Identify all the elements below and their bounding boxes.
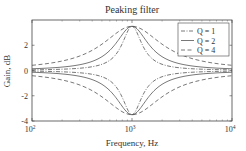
- x-tick-label: 103: [125, 124, 136, 134]
- y-tick-label: 2: [24, 41, 28, 50]
- legend-label: Q = 2: [197, 37, 215, 46]
- y-axis-label: Gain, dB: [2, 55, 12, 88]
- x-tick-label: 104: [225, 124, 236, 134]
- curve-dashdot: [32, 71, 232, 115]
- curve-dashed: [32, 76, 232, 115]
- curve-solid: [32, 72, 232, 114]
- legend-label: Q = 4: [197, 46, 215, 55]
- y-tick-label: -2: [21, 92, 28, 101]
- peaking-filter-chart: Peaking filter -4-202 102103104 Gain, dB…: [0, 0, 246, 151]
- legend: Q = 1Q = 2Q = 4: [178, 23, 229, 56]
- chart-title: Peaking filter: [105, 4, 160, 15]
- x-tick-label: 102: [25, 124, 36, 134]
- legend-label: Q = 1: [197, 27, 215, 36]
- x-axis-label: Frequency, Hz: [106, 138, 158, 148]
- y-tick-label: 0: [24, 67, 28, 76]
